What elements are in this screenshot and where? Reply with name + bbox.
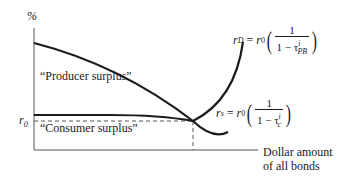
consumer-surplus-label: “Consumer surplus” [40, 122, 138, 134]
r0-label: r0 [19, 114, 28, 129]
left-paren: ( [267, 28, 272, 54]
demand-equation: rD = r0 ( 1 1 − τiPB ) [233, 24, 319, 58]
x-axis-label: Dollar amount of all bonds [263, 145, 333, 173]
supply-equation: rs = r0 ( 1 1 − τic ) [216, 97, 293, 131]
equals-sign: = [224, 106, 237, 121]
right-paren: ) [286, 101, 291, 127]
supply-fraction: 1 1 − τic [255, 97, 283, 131]
y-axis-label: % [27, 10, 37, 22]
right-paren: ) [312, 28, 317, 54]
equals-sign: = [243, 33, 256, 48]
demand-fraction: 1 1 − τiPB [275, 24, 310, 58]
left-paren: ( [247, 101, 252, 127]
producer-surplus-label: “Producer surplus” [40, 70, 132, 82]
